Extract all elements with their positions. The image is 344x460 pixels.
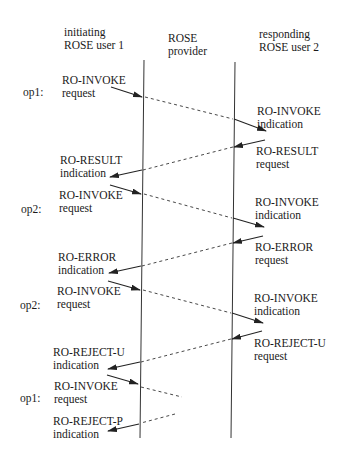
primitive-op1b-invoke-request: RO-INVOKE request [54,380,118,406]
sequence-diagram-lines [0,0,344,460]
primitive-reject-u-request: RO-REJECT-U request [254,337,326,363]
primitive-op2b-invoke-indication: RO-INVOKE indication [254,292,318,318]
primitive-reject-p-indication: RO-REJECT-P indication [53,415,123,441]
provider-left-boundary [140,60,144,438]
primitive-error-request: RO-ERROR request [255,241,313,267]
dashed-error [142,243,232,266]
header-provider-line1: ROSE [168,32,207,45]
provider-right-boundary [231,62,235,438]
dashed-op2b-invoke [143,290,231,313]
header-responding-line1: responding [259,28,319,41]
primitive-op1-invoke-request: RO-INVOKE request [62,74,126,100]
primitive-op1-invoke-indication: RO-INVOKE indication [257,105,321,131]
header-initiating-line1: initiating [64,26,124,39]
primitive-result-request: RO-RESULT request [256,145,318,171]
header-initiating-user: initiating ROSE user 1 [64,26,124,52]
dashed-op2-invoke [144,194,232,218]
primitive-op2-invoke-request: RO-INVOKE request [59,189,123,215]
primitive-error-indication: RO-ERROR indication [58,251,116,277]
header-responding-line2: ROSE user 2 [259,41,319,54]
primitive-result-indication: RO-RESULT indication [60,154,122,180]
primitive-op2b-invoke-request: RO-INVOKE request [57,285,121,311]
primitive-op2-invoke-indication: RO-INVOKE indication [255,196,319,222]
op-label-1: op1: [23,86,43,99]
op-label-3: op2: [20,299,40,312]
header-responding-user: responding ROSE user 2 [259,28,319,54]
dashed-op1b-invoke [141,387,182,397]
dashed-reject-p [141,414,175,423]
dashed-reject-u [141,339,231,362]
op-label-4: op1: [20,392,40,405]
dashed-op1-invoke [145,97,233,119]
header-rose-provider: ROSE provider [168,32,207,58]
primitive-reject-u-indication: RO-REJECT-U indication [53,346,125,372]
header-provider-line2: provider [168,45,207,58]
op-label-2: op2: [21,203,41,216]
dashed-result [143,147,233,170]
header-initiating-line2: ROSE user 1 [64,39,124,52]
